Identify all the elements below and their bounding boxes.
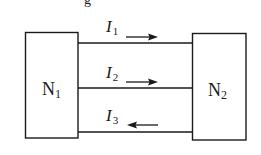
node-n1: N1 bbox=[26, 33, 79, 139]
arrow-left-icon bbox=[127, 122, 158, 129]
current-i1: I1 bbox=[105, 17, 158, 41]
wires bbox=[78, 43, 192, 132]
circuit-diagram: g N1 N2 I1 I2 I3 bbox=[0, 0, 261, 155]
node-n2: N2 bbox=[193, 34, 247, 141]
current-i2-label: I2 bbox=[105, 63, 118, 83]
current-i1-label: I1 bbox=[105, 17, 118, 37]
current-i3-label: I3 bbox=[105, 106, 119, 126]
current-i3: I3 bbox=[105, 106, 158, 129]
current-i2: I2 bbox=[105, 63, 158, 86]
arrow-right-icon bbox=[126, 79, 158, 86]
arrow-right-icon bbox=[126, 34, 158, 41]
clipped-caption-glyph: g bbox=[84, 0, 91, 7]
